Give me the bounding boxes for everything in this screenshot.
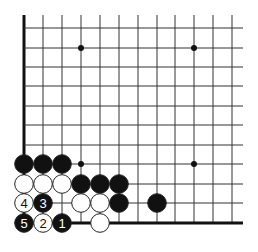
star-point-icon (191, 161, 197, 167)
white-stone (91, 194, 110, 213)
white-stone-icon (91, 194, 110, 213)
black-stone (110, 175, 129, 194)
move-number-label: 2 (39, 216, 46, 231)
black-stone-move-3: 3 (34, 194, 53, 213)
black-stone-icon (148, 194, 167, 213)
move-number-label: 4 (20, 196, 27, 211)
black-stone-move-1: 1 (53, 214, 72, 233)
move-number-label: 5 (20, 216, 27, 231)
star-point-icon (78, 45, 84, 51)
black-stone (110, 194, 129, 213)
black-stone (53, 155, 72, 174)
stones-layer: 43521 (15, 155, 167, 233)
white-stone (34, 175, 53, 194)
white-stone (72, 194, 91, 213)
white-stone (53, 175, 72, 194)
black-stone (15, 155, 34, 174)
black-stone-icon (91, 175, 110, 194)
white-stone-icon (15, 175, 34, 194)
move-number-label: 1 (58, 216, 65, 231)
black-stone (91, 175, 110, 194)
white-stone-icon (53, 175, 72, 194)
white-stone (91, 214, 110, 233)
go-board: 43521 (0, 0, 258, 252)
black-stone-icon (34, 155, 53, 174)
black-stone-icon (110, 175, 129, 194)
black-stone-icon (53, 155, 72, 174)
black-stone (148, 194, 167, 213)
black-stone (34, 155, 53, 174)
white-stone-move-4: 4 (15, 194, 34, 213)
white-stone-move-2: 2 (34, 214, 53, 233)
black-stone (72, 175, 91, 194)
white-stone-icon (34, 175, 53, 194)
black-stone-icon (15, 155, 34, 174)
star-point-icon (78, 161, 84, 167)
star-point-icon (191, 45, 197, 51)
white-stone-icon (72, 194, 91, 213)
black-stone-move-5: 5 (15, 214, 34, 233)
white-stone (15, 175, 34, 194)
black-stone-icon (72, 175, 91, 194)
white-stone-icon (91, 214, 110, 233)
move-number-label: 3 (39, 196, 46, 211)
black-stone-icon (110, 194, 129, 213)
